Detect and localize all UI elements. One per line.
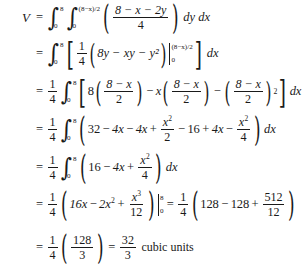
plus-operator: +: [125, 160, 137, 175]
eval-upper-limit: 8: [160, 194, 163, 202]
exponent-2: 2: [146, 152, 150, 161]
term-4x-second: 4x: [136, 122, 148, 137]
numerator-x-squared: x2: [161, 116, 174, 130]
antiderivative-expression: 8y − xy − y²: [97, 46, 159, 61]
equals-sign: =: [33, 84, 46, 99]
equation-line-5: = 1 4 ∫ 8 0 ( 16 − 4x + x2 4 ): [8, 152, 308, 183]
minus-operator: −: [101, 160, 113, 175]
coefficient-numerator: 1: [48, 191, 58, 205]
term-1-coefficient: 8: [88, 84, 94, 99]
minus-operator: −: [124, 122, 136, 137]
coefficient-denominator: 4: [48, 248, 58, 261]
paren-open: (: [80, 149, 87, 187]
inner-lower-limit: 0: [73, 22, 100, 30]
integral-limits: 8 0: [70, 119, 76, 141]
integral: ∫ 8 0: [60, 161, 77, 174]
term-16: 16: [88, 160, 101, 175]
equals-sign: =: [33, 46, 46, 61]
term-3-numerator: 8 − x: [234, 78, 263, 92]
paren-open: (: [225, 76, 231, 108]
integral: ∫ 8 0: [60, 85, 76, 98]
coefficient-denominator: 4: [48, 205, 58, 218]
coefficient-numerator: 1: [178, 191, 188, 205]
numerator-x-cubed: x3: [130, 191, 143, 205]
term-x-cubed-over-12: x3 12: [128, 191, 144, 218]
variable-V: V: [8, 10, 33, 26]
integrand-fraction: 8 − x − 2y 4: [113, 4, 168, 31]
numerator-128: 128: [71, 234, 93, 248]
eval-limits: 8 0: [160, 194, 163, 216]
paren-close: ): [148, 186, 154, 224]
paren-close: ): [288, 186, 294, 224]
outer-upper-limit: 8: [60, 5, 64, 13]
term-32: 32: [88, 122, 100, 137]
paren-close: ): [172, 0, 179, 36]
upper-limit: 8: [73, 79, 76, 87]
equation-line-6: = 1 4 ( 16x − 2x2 + x3 12 ) 8 0: [8, 189, 308, 220]
minus-operator: −: [176, 122, 188, 137]
paren-open: (: [61, 186, 67, 224]
term-16x: 16x: [69, 197, 87, 212]
denominator-12: 12: [266, 205, 282, 218]
eval-limits: (8−x)/2 0: [171, 43, 192, 65]
equals-sign: =: [33, 160, 46, 175]
equation-line-3: = 1 4 ∫ 8 0 [ 8 ( 8 − x 2 ) − x: [8, 76, 308, 107]
outer-integral-limits: 8 0: [58, 7, 64, 29]
result-numerator: 32: [120, 234, 136, 248]
equals-sign-second: =: [164, 197, 177, 212]
term-2-denominator: 2: [181, 92, 191, 105]
eval-vertical-rule: [158, 194, 159, 216]
line-5-rhs: 1 4 ∫ 8 0 ( 16 − 4x + x2 4 ) dx: [46, 152, 308, 183]
differential-dx: dx: [207, 46, 219, 61]
lower-limit: 0: [54, 58, 64, 66]
equals-sign-final: =: [105, 240, 118, 255]
differential-dx: dx: [290, 84, 302, 99]
coefficient-one-quarter: 1 4: [48, 78, 58, 105]
term-2-numerator: 8 − x: [172, 78, 201, 92]
paren-open: (: [61, 229, 68, 267]
paren-close: ): [97, 229, 104, 267]
term-2x-squared: 2x2: [99, 197, 115, 212]
exponent-3: 3: [137, 189, 141, 198]
denominator-3: 3: [77, 248, 87, 261]
paren-close: ): [204, 76, 210, 108]
eval-lower-limit: 0: [160, 207, 163, 215]
final-result-fraction: 32 3: [120, 234, 136, 261]
term-1-fraction: 8 − x 2: [104, 78, 133, 105]
coefficient-denominator: 4: [48, 130, 58, 143]
bracket-close: ]: [195, 35, 202, 72]
lower-limit: 0: [67, 134, 76, 142]
coefficient-one-quarter: 1 4: [77, 40, 87, 67]
paren-close: ): [155, 149, 162, 187]
equation-line-2: = ∫ 8 0 [ 1 4 ( 8y − xy − y² ) (8−x)/2: [8, 38, 308, 69]
equals-sign: =: [33, 197, 46, 212]
denominator-2: 2: [162, 130, 172, 143]
equals-sign: =: [33, 10, 46, 25]
outer-lower-limit: 0: [54, 22, 64, 30]
numerator-x-squared: x2: [138, 154, 152, 168]
evaluation-bar: 8 0: [158, 194, 164, 216]
equals-sign: =: [33, 122, 46, 137]
bracket-close: ]: [279, 73, 286, 110]
line-6-rhs: 1 4 ( 16x − 2x2 + x3 12 ) 8 0 = 1: [46, 189, 308, 220]
minus-operator: −: [219, 197, 231, 212]
integrand-denominator: 4: [136, 18, 146, 31]
integral: ∫ 8 0: [47, 47, 64, 60]
coefficient-denominator: 4: [178, 205, 188, 218]
coefficient-one-quarter: 1 4: [48, 234, 58, 261]
evaluation-bar: (8−x)/2 0: [169, 43, 193, 65]
coefficient-numerator: 1: [77, 40, 87, 54]
value-128-second: 128: [231, 197, 249, 212]
inner-upper-limit: (8−x)/2: [79, 5, 100, 13]
exponent-2: 2: [168, 114, 172, 123]
result-denominator: 3: [123, 248, 133, 261]
integral-limits: 8 0: [70, 81, 76, 103]
term-2-coefficient: x: [156, 84, 161, 99]
denominator-4: 4: [238, 130, 248, 143]
fraction-128-over-3: 128 3: [71, 234, 93, 261]
eval-upper-limit: (8−x)/2: [171, 43, 192, 51]
plus-operator: +: [249, 197, 261, 212]
term-x-squared-over-4: x2 4: [237, 116, 250, 143]
plus-operator: +: [115, 197, 127, 212]
paren-close: ): [160, 38, 166, 70]
